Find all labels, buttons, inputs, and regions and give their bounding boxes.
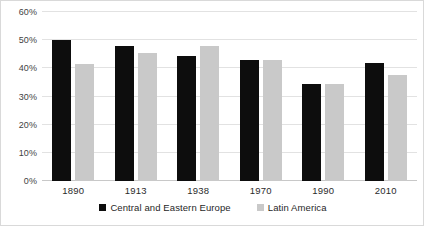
- bar-group: [42, 12, 105, 181]
- bar[interactable]: [177, 56, 196, 181]
- bar[interactable]: [138, 53, 157, 181]
- bar[interactable]: [365, 63, 384, 181]
- bar[interactable]: [302, 84, 321, 181]
- bar[interactable]: [240, 60, 259, 181]
- bar-group: [355, 12, 418, 181]
- y-tick-label: 60%: [19, 7, 37, 17]
- bar-chart-figure: 0%10%20%30%40%50%60% 1890191319381970199…: [0, 0, 424, 226]
- y-tick-label: 50%: [19, 35, 37, 45]
- bar-group: [292, 12, 355, 181]
- bar[interactable]: [200, 46, 219, 181]
- y-tick-label: 40%: [19, 63, 37, 73]
- bar[interactable]: [75, 64, 94, 181]
- x-tick-label: 1938: [167, 183, 230, 199]
- bar[interactable]: [263, 60, 282, 181]
- bar-series-container: [42, 12, 417, 181]
- bar[interactable]: [388, 75, 407, 181]
- y-tick-label: 10%: [19, 148, 37, 158]
- legend-label: Central and Eastern Europe: [110, 202, 230, 213]
- y-tick-label: 0%: [24, 176, 37, 186]
- y-axis: 0%10%20%30%40%50%60%: [1, 12, 37, 181]
- legend-entry[interactable]: Central and Eastern Europe: [99, 202, 230, 213]
- y-tick-label: 30%: [19, 92, 37, 102]
- x-tick-label: 1913: [105, 183, 168, 199]
- bar[interactable]: [52, 40, 71, 181]
- legend-entry[interactable]: Latin America: [257, 202, 327, 213]
- bar[interactable]: [325, 84, 344, 181]
- x-tick-label: 1990: [292, 183, 355, 199]
- x-tick-label: 1970: [230, 183, 293, 199]
- legend-swatch-icon: [99, 204, 106, 211]
- legend-label: Latin America: [268, 202, 327, 213]
- bar-group: [105, 12, 168, 181]
- y-tick-label: 20%: [19, 120, 37, 130]
- bar-group: [230, 12, 293, 181]
- chart-legend: Central and Eastern EuropeLatin America: [1, 202, 424, 213]
- x-tick-label: 2010: [355, 183, 418, 199]
- x-axis: 189019131938197019902010: [42, 183, 417, 199]
- x-tick-label: 1890: [42, 183, 105, 199]
- bar-group: [167, 12, 230, 181]
- legend-swatch-icon: [257, 204, 264, 211]
- bar[interactable]: [115, 46, 134, 181]
